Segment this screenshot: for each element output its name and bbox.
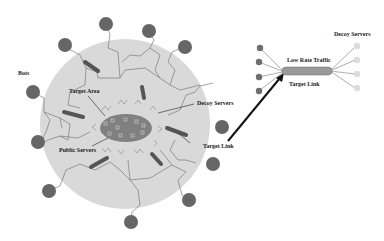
target-link-arrow [228, 73, 284, 141]
bot-node [26, 85, 40, 99]
server-bar [142, 87, 144, 98]
bot-node [58, 38, 72, 52]
inset-label-target-link: Target Link [289, 81, 320, 87]
inset-decoy [354, 71, 360, 77]
inset-label-decoy-servers: Decoy Servers [334, 31, 371, 37]
bot-node [124, 215, 138, 229]
label-target-area: Target Area [69, 88, 100, 94]
bot-node [206, 157, 220, 171]
bot-node [182, 193, 196, 207]
inset-decoy [354, 85, 360, 91]
inset-bot [256, 59, 262, 65]
inset-bot [256, 74, 262, 80]
bot-node [215, 120, 229, 134]
label-decoy-servers: Decoy Servers [197, 100, 234, 106]
bot-node [178, 40, 192, 54]
inset-target-link [282, 67, 332, 75]
label-target-link: Target Link [203, 143, 234, 149]
bot-node [142, 24, 156, 38]
crossfire-attack-diagram: Bots Target Area Decoy Servers Public Se… [0, 0, 384, 241]
label-bots: Bots [18, 70, 30, 76]
label-public-servers: Public Servers [59, 147, 97, 153]
bot-node [31, 135, 45, 149]
inset-label-low-rate-traffic: Low Rate Traffic [287, 57, 331, 63]
bot-node [99, 17, 113, 31]
inset-bot [256, 88, 262, 94]
inset-decoy [354, 43, 360, 49]
inset-bot [257, 45, 263, 51]
inset-decoy [354, 57, 360, 63]
bot-node [42, 184, 56, 198]
